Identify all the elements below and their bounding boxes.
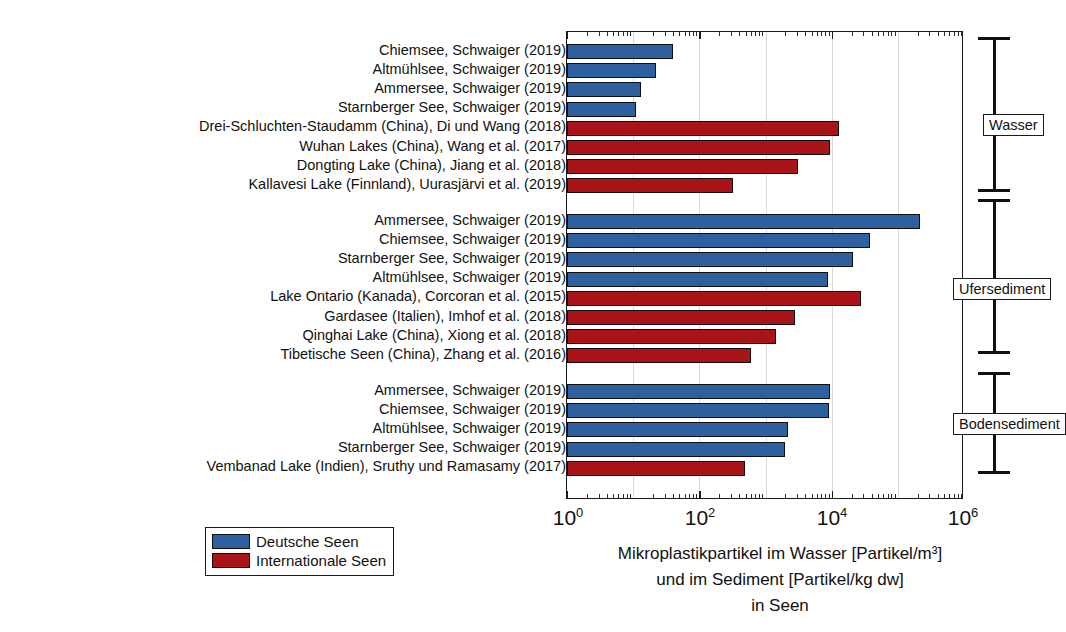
bracket-line-ufersediment	[993, 199, 996, 351]
bracket-cap-bodensediment-bottom	[978, 471, 1010, 474]
category-label: Chiemsee, Schwaiger (2019)	[379, 43, 566, 58]
category-label: Ammersee, Schwaiger (2019)	[374, 81, 566, 96]
bracket-label-wasser: Wasser	[983, 114, 1044, 136]
category-label: Vembanad Lake (Indien), Sruthy und Ramas…	[207, 459, 566, 474]
category-label: Kallavesi Lake (Finnland), Uurasjärvi et…	[248, 177, 566, 192]
category-label: Gardasee (Italien), Imhof et al. (2018)	[324, 309, 566, 324]
category-label: Altmühlsee, Schwaiger (2019)	[373, 270, 566, 285]
category-label: Ammersee, Schwaiger (2019)	[374, 213, 566, 228]
category-label: Altmühlsee, Schwaiger (2019)	[373, 421, 566, 436]
x-axis-title: Mikroplastikpartikel im Wasser [Partikel…	[520, 541, 1040, 619]
xtick-10e4: 104	[817, 505, 848, 530]
bracket-cap-ufersediment-bottom	[978, 351, 1010, 354]
category-label: Drei-Schluchten-Staudamm (China), Di und…	[199, 119, 566, 134]
category-label: Starnberger See, Schwaiger (2019)	[338, 100, 566, 115]
category-label: Chiemsee, Schwaiger (2019)	[379, 402, 566, 417]
category-label: Starnberger See, Schwaiger (2019)	[338, 440, 566, 455]
bracket-label-ufersediment: Ufersediment	[953, 278, 1051, 300]
xtick-10e6: 106	[948, 505, 979, 530]
category-label: Ammersee, Schwaiger (2019)	[374, 383, 566, 398]
axis-title-line-1: Mikroplastikpartikel im Wasser [Partikel…	[520, 541, 1040, 567]
category-label: Tibetische Seen (China), Zhang et al. (2…	[280, 347, 566, 362]
category-label: Starnberger See, Schwaiger (2019)	[338, 251, 566, 266]
category-label: Lake Ontario (Kanada), Corcoran et al. (…	[270, 289, 566, 304]
bracket-label-bodensediment: Bodensediment	[953, 413, 1066, 435]
legend-label-internationale-seen: Internationale Seen	[256, 552, 386, 569]
axis-title-line-3: in Seen	[520, 593, 1040, 619]
category-label: Dongting Lake (China), Jiang et al. (201…	[297, 158, 566, 173]
legend-swatch-blue-icon	[212, 534, 250, 549]
legend-swatch-red-icon	[212, 553, 250, 568]
bracket-cap-wasser-bottom	[978, 189, 1010, 192]
xtick-10e2: 102	[685, 505, 716, 530]
category-label: Altmühlsee, Schwaiger (2019)	[373, 62, 566, 77]
xtick-10e0: 100	[553, 505, 584, 530]
category-label: Wuhan Lakes (China), Wang et al. (2017)	[299, 139, 566, 154]
bracket-line-wasser	[993, 37, 996, 189]
legend-label-deutsche-seen: Deutsche Seen	[256, 533, 359, 550]
legend-item-deutsche-seen: Deutsche Seen	[212, 532, 386, 551]
category-label: Qinghai Lake (China), Xiong et al. (2018…	[302, 328, 566, 343]
legend-item-internationale-seen: Internationale Seen	[212, 551, 386, 570]
category-label: Chiemsee, Schwaiger (2019)	[379, 232, 566, 247]
axis-title-line-2: und im Sediment [Partikel/kg dw]	[520, 567, 1040, 593]
legend: Deutsche Seen Internationale Seen	[205, 527, 394, 576]
